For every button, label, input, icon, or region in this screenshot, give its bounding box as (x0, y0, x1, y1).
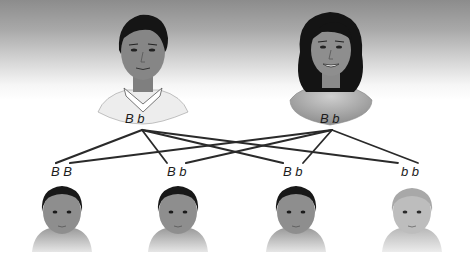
inheritance-diagram: B b B b B B B b B b b b (0, 0, 470, 260)
child-3-genotype-label: B b (283, 165, 303, 178)
father-to-child-4-line (142, 130, 398, 163)
father-to-child-1-line (56, 130, 142, 163)
diagram-artwork (0, 0, 470, 260)
mother-genotype-label: B b (320, 112, 340, 125)
child-1-genotype-label: B B (51, 165, 72, 178)
father-figure (98, 15, 188, 124)
inheritance-lines (56, 130, 418, 163)
child-2-figure (148, 186, 208, 252)
mother-figure (290, 12, 372, 125)
mother-to-child-1-line (70, 130, 332, 163)
child-4-genotype-label: b b (401, 165, 419, 178)
child-4-figure (382, 188, 442, 252)
child-2-genotype-label: B b (167, 165, 187, 178)
mother-to-child-4-line (332, 130, 418, 163)
child-3-figure (266, 186, 326, 252)
father-genotype-label: B b (125, 112, 145, 125)
child-1-figure (32, 186, 92, 252)
